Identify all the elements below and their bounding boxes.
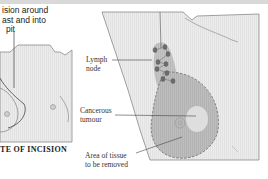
- site-of-incision-caption: TE OF INCISION: [0, 145, 67, 154]
- torso-front-view: [0, 32, 72, 142]
- tumour-label-line2: tumour: [80, 115, 112, 124]
- incision-label: ision around ast and into pit: [2, 6, 48, 35]
- area-label-line2: to be removed: [85, 160, 128, 169]
- area-to-remove-label: Area of tissue to be removed: [85, 151, 128, 169]
- side-view-panel: [102, 12, 259, 160]
- tumour-label-line1: Cancerous: [80, 106, 112, 115]
- cancerous-tumour-label: Cancerous tumour: [80, 106, 112, 124]
- lymph-node-label-line1: Lymph: [86, 55, 107, 64]
- lymph-node-label-line2: node: [86, 64, 107, 73]
- incision-label-line3: pit: [2, 25, 48, 35]
- lymph-node-label: Lymph node: [86, 55, 107, 73]
- area-label-line1: Area of tissue: [85, 151, 128, 160]
